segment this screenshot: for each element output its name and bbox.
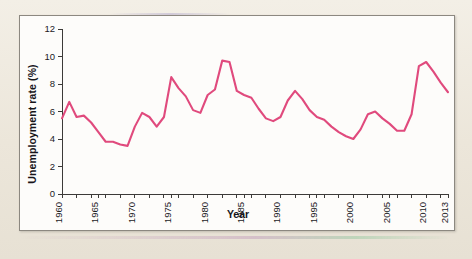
- y-tick-label: 10: [44, 51, 55, 62]
- y-tick-label: 8: [50, 78, 55, 89]
- x-axis-title: Year: [20, 208, 456, 220]
- plot-area: Unemployment rate (%) 024681012 19601965…: [20, 16, 456, 232]
- y-axis-title: Unemployment rate (%): [23, 44, 41, 204]
- y-tick-label: 6: [50, 106, 55, 117]
- x-axis-title-text: Year: [227, 208, 249, 220]
- y-axis-title-text: Unemployment rate (%): [26, 64, 38, 183]
- unemployment-rate-line: [62, 61, 448, 146]
- chart-panel: Unemployment rate (%) 024681012 19601965…: [19, 15, 455, 231]
- figure-root: Unemployment rate (%) 024681012 19601965…: [0, 0, 472, 259]
- y-tick-group: 024681012: [44, 23, 62, 199]
- y-tick-label: 0: [50, 188, 55, 199]
- line-chart: 024681012 196019651970197519801985199019…: [20, 16, 456, 232]
- y-tick-label: 2: [50, 161, 55, 172]
- scan-artifact-bottom: [20, 236, 450, 239]
- y-tick-label: 12: [44, 23, 55, 34]
- y-tick-label: 4: [50, 133, 55, 144]
